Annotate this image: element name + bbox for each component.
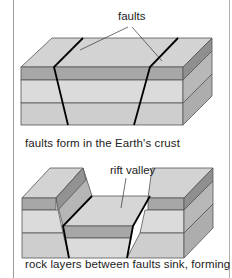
rift-valley-label: rift valley xyxy=(110,164,155,176)
faults-label: faults xyxy=(118,10,146,22)
crust-block-rifted xyxy=(22,168,213,258)
bottom-caption: rock layers between faults sink, forming xyxy=(25,258,230,270)
top-caption: faults form in the Earth's crust xyxy=(25,137,180,149)
crust-block-intact xyxy=(21,38,212,125)
